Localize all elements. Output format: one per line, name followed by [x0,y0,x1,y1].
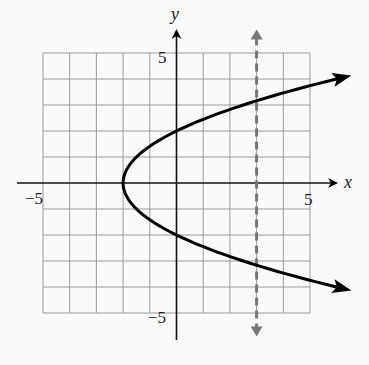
x-axis-label: x [343,172,352,192]
y-tick-label-max: 5 [158,48,167,67]
y-axis-label: y [169,4,179,24]
graph-plot: x y −5 5 5 −5 [0,0,369,365]
y-tick-label-min: −5 [148,308,166,327]
dashed-line-arrow-down-icon [251,326,263,336]
x-tick-label-max: 5 [304,190,313,209]
x-tick-label-min: −5 [25,189,43,208]
dashed-line-arrow-up-icon [251,30,263,40]
